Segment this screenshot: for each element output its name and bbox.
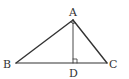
label-c: C: [109, 58, 117, 71]
triangle-diagram: A B C D: [0, 0, 129, 79]
label-a: A: [68, 6, 78, 19]
label-d: D: [69, 67, 78, 79]
label-b: B: [3, 58, 11, 71]
segment-ab: [16, 20, 73, 63]
segment-ac: [73, 20, 107, 63]
